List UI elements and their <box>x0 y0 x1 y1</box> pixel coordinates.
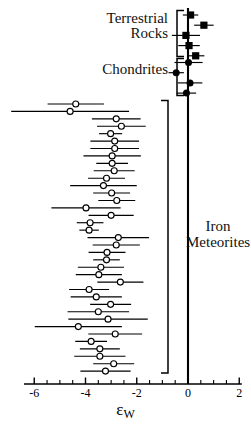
iron-marker <box>108 301 114 307</box>
terrestrial-marker <box>200 22 207 29</box>
x-axis-tick-label: -4 <box>73 386 99 401</box>
figure-root: Terrestrial Rocks Chondrites Iron Meteor… <box>0 0 251 427</box>
iron-marker <box>112 138 118 144</box>
iron-marker <box>86 287 92 293</box>
iron-marker <box>113 242 119 248</box>
terrestrial-marker <box>192 52 199 59</box>
iron-marker <box>109 190 115 196</box>
iron-marker <box>109 160 115 166</box>
iron-bracket <box>161 101 168 374</box>
x-axis-tick-label: 2 <box>226 386 251 401</box>
terrestrial-marker <box>182 32 189 39</box>
chondrites-bracket <box>177 59 184 96</box>
iron-marker <box>113 116 119 122</box>
iron-marker <box>118 123 124 129</box>
iron-marker <box>112 331 118 337</box>
iron-marker <box>100 183 106 189</box>
x-axis-tick-label: -2 <box>124 386 150 401</box>
group-label-iron-meteorites: Iron Meteorites <box>186 219 250 251</box>
iron-marker <box>111 168 117 174</box>
chondrite-marker <box>183 90 190 97</box>
iron-marker <box>83 205 89 211</box>
iron-marker <box>75 324 81 330</box>
chondrite-marker <box>187 79 194 86</box>
iron-marker <box>87 220 93 226</box>
iron-marker <box>97 346 103 352</box>
iron-marker <box>93 294 99 300</box>
iron-marker <box>104 175 110 181</box>
iron-marker <box>108 212 114 218</box>
terrestrial-marker <box>187 11 194 18</box>
iron-marker <box>105 316 111 322</box>
iron-marker <box>102 368 108 374</box>
iron-marker <box>104 257 110 263</box>
iron-marker <box>104 249 110 255</box>
x-axis-tick-label: -6 <box>21 386 47 401</box>
iron-marker <box>86 227 92 233</box>
iron-marker <box>112 146 118 152</box>
iron-marker <box>114 197 120 203</box>
iron-marker <box>73 101 79 107</box>
iron-marker <box>97 353 103 359</box>
iron-marker <box>67 108 73 114</box>
iron-marker <box>88 338 94 344</box>
chondrite-marker <box>173 69 180 76</box>
x-axis-title: εW <box>0 400 251 422</box>
group-label-terrestrial-rocks: Terrestrial Rocks <box>58 11 168 42</box>
iron-marker <box>96 272 102 278</box>
iron-marker <box>111 361 117 367</box>
chondrite-marker <box>185 59 192 66</box>
iron-marker <box>108 131 114 137</box>
x-axis-title-subscript: W <box>123 407 134 421</box>
iron-marker <box>95 309 101 315</box>
group-label-chondrites: Chondrites <box>48 62 168 77</box>
iron-marker <box>98 264 104 270</box>
iron-marker <box>109 153 115 159</box>
x-axis-tick-label: 0 <box>175 386 201 401</box>
terrestrial-marker <box>185 42 192 49</box>
iron-marker <box>117 279 123 285</box>
iron-marker <box>115 235 121 241</box>
